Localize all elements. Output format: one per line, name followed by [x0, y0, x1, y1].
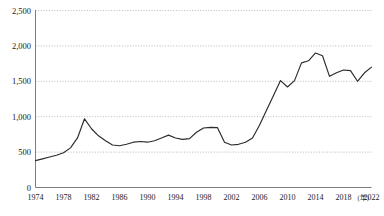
y-tick-label: 500	[18, 147, 31, 157]
x-axis-tick-labels: 1974197819821986199019941998200220062010…	[28, 193, 380, 202]
y-tick-label: 1,000	[12, 112, 31, 122]
x-tick-label: 1974	[28, 193, 44, 202]
chart-canvas: 05001,0001,5002,0002,500 197419781982198…	[0, 0, 384, 216]
x-tick-label: 2010	[280, 193, 296, 202]
x-tick-label: 2014	[308, 193, 324, 202]
y-tick-label: 2,500	[12, 6, 31, 16]
y-axis-tick-labels: 05001,0001,5002,0002,500	[12, 6, 31, 193]
x-tick-label: 1986	[112, 193, 128, 202]
x-axis-unit-label: (年)	[358, 193, 369, 202]
x-tick-label: 2018	[336, 193, 352, 202]
x-tick-label: 1998	[196, 193, 212, 202]
series-line	[36, 53, 372, 161]
line-chart: 05001,0001,5002,0002,500 197419781982198…	[0, 0, 384, 216]
x-tick-label: 1978	[56, 193, 72, 202]
x-tick-label: 2006	[252, 193, 268, 202]
x-tick-label: 1990	[140, 193, 156, 202]
y-tick-label: 2,000	[12, 41, 31, 51]
x-tick-label: 1994	[168, 193, 184, 202]
x-tick-label: 2002	[224, 193, 240, 202]
gridlines-group	[36, 11, 372, 153]
axis-group	[36, 10, 372, 188]
y-tick-label: 0	[27, 183, 31, 193]
y-tick-label: 1,500	[12, 76, 31, 86]
series-group	[36, 53, 372, 161]
x-tick-label: 1982	[84, 193, 100, 202]
